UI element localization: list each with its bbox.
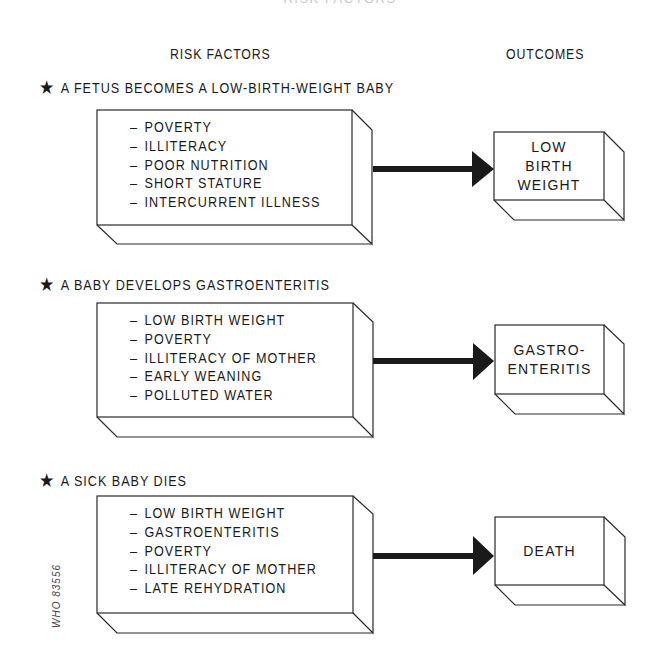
dash: – <box>130 579 144 598</box>
risk-factor: POOR NUTRITION <box>144 156 268 175</box>
list-item: –LOW BIRTH WEIGHT <box>130 504 317 523</box>
risk-factor: ILLITERACY OF MOTHER <box>144 349 317 368</box>
star-icon: ★ <box>39 471 55 490</box>
risk-factor: POVERTY <box>144 118 212 137</box>
list-item: –ILLITERACY OF MOTHER <box>130 560 317 579</box>
list-item: –EARLY WEANING <box>130 367 317 386</box>
catalog-number: WHO 83556 <box>51 564 62 628</box>
risk-factor: EARLY WEANING <box>144 367 262 386</box>
outcome-label-3: DEATH <box>495 517 604 585</box>
risk-factor-list-1: –POVERTY –ILLITERACY –POOR NUTRITION –SH… <box>130 118 321 212</box>
dash: – <box>130 542 144 561</box>
outcome-label-1: LOW BIRTH WEIGHT <box>494 132 604 200</box>
risk-factor: LATE REHYDRATION <box>144 579 286 598</box>
list-item: –POVERTY <box>130 542 317 561</box>
dash: – <box>130 193 144 212</box>
list-item: –GASTROENTERITIS <box>130 523 317 542</box>
section-title-1: ★ A FETUS BECOMES A LOW-BIRTH-WEIGHT BAB… <box>39 78 394 97</box>
risk-factor: INTERCURRENT ILLNESS <box>144 193 320 212</box>
list-item: –SHORT STATURE <box>130 174 321 193</box>
list-item: –INTERCURRENT ILLNESS <box>130 193 321 212</box>
list-item: –LOW BIRTH WEIGHT <box>130 311 317 330</box>
section-title-text: A SICK BABY DIES <box>61 473 187 489</box>
list-item: –ILLITERACY OF MOTHER <box>130 349 317 368</box>
list-item: –ILLITERACY <box>130 137 321 156</box>
outcome-line: ENTERITIS <box>508 360 592 379</box>
outcome-line: BIRTH <box>525 157 573 176</box>
risk-factor: ILLITERACY <box>144 137 227 156</box>
risk-factor-list-2: –LOW BIRTH WEIGHT –POVERTY –ILLITERACY O… <box>130 311 317 405</box>
risk-factor-list-3: –LOW BIRTH WEIGHT –GASTROENTERITIS –POVE… <box>130 504 317 598</box>
dash: – <box>130 504 144 523</box>
section-title-text: A BABY DEVELOPS GASTROENTERITIS <box>61 277 330 293</box>
dash: – <box>130 523 144 542</box>
dash: – <box>130 311 144 330</box>
risk-factor: ILLITERACY OF MOTHER <box>144 560 317 579</box>
list-item: –LATE REHYDRATION <box>130 579 317 598</box>
risk-factor: POLLUTED WATER <box>144 386 273 405</box>
dash: – <box>130 560 144 579</box>
arrow-1 <box>373 151 494 187</box>
arrow-2 <box>373 343 494 380</box>
dash: – <box>130 118 144 137</box>
section-title-3: ★ A SICK BABY DIES <box>39 471 187 490</box>
arrow-3 <box>373 536 494 575</box>
list-item: –POVERTY <box>130 330 317 349</box>
dash: – <box>130 137 144 156</box>
dash: – <box>130 367 144 386</box>
risk-factor: POVERTY <box>144 542 212 561</box>
star-icon: ★ <box>39 78 55 97</box>
list-item: –POOR NUTRITION <box>130 156 321 175</box>
outcome-line: DEATH <box>523 542 575 561</box>
outcome-line: WEIGHT <box>517 176 580 195</box>
dash: – <box>130 174 144 193</box>
dash: – <box>130 349 144 368</box>
risk-factor: POVERTY <box>144 330 212 349</box>
dash: – <box>130 156 144 175</box>
list-item: –POVERTY <box>130 118 321 137</box>
risk-factor: LOW BIRTH WEIGHT <box>144 311 285 330</box>
outcome-label-2: GASTRO- ENTERITIS <box>495 325 604 394</box>
outcome-line: LOW <box>531 138 567 157</box>
list-item: –POLLUTED WATER <box>130 386 317 405</box>
star-icon: ★ <box>39 275 55 294</box>
section-title-2: ★ A BABY DEVELOPS GASTROENTERITIS <box>39 275 330 294</box>
dash: – <box>130 330 144 349</box>
dash: – <box>130 386 144 405</box>
risk-factor: SHORT STATURE <box>144 174 262 193</box>
outcome-line: GASTRO- <box>513 341 585 360</box>
risk-factor: GASTROENTERITIS <box>144 523 279 542</box>
section-title-text: A FETUS BECOMES A LOW-BIRTH-WEIGHT BABY <box>61 80 394 96</box>
risk-factor: LOW BIRTH WEIGHT <box>144 504 285 523</box>
